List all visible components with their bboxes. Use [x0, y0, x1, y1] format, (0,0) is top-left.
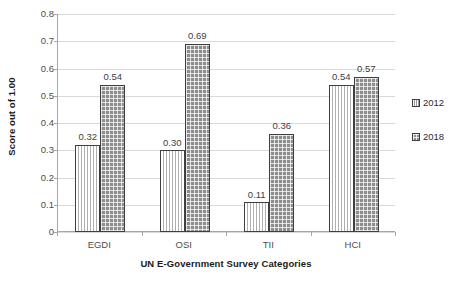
y-axis-tickmark: [54, 14, 58, 15]
bar-hci-2018[interactable]: [354, 77, 379, 232]
y-axis-tickmark: [54, 96, 58, 97]
x-axis-label-osi: OSI: [142, 240, 227, 250]
legend: 20122018: [412, 98, 464, 166]
bar-value-label: 0.54: [332, 72, 351, 82]
x-axis-label-hci: HCI: [311, 240, 396, 250]
bar-group: 0.320.54: [75, 14, 125, 232]
x-axis-title: UN E-Government Survey Categories: [57, 258, 395, 269]
x-axis-label-tii: TII: [226, 240, 311, 250]
y-axis-tickmark: [54, 205, 58, 206]
legend-label: 2012: [423, 98, 444, 108]
legend-swatch-icon: [412, 99, 420, 107]
y-axis-tick-label: 0: [22, 227, 54, 237]
bar-value-label: 0.36: [273, 121, 292, 131]
bar-chart: Score out of 1.00 0.80.70.60.50.40.30.20…: [0, 0, 464, 281]
bar-value-label: 0.57: [357, 64, 376, 74]
x-axis-tickmark: [142, 232, 143, 236]
y-axis-tick-label: 0.4: [22, 118, 54, 128]
x-axis-tickmark: [311, 232, 312, 236]
bar-egdi-2018[interactable]: [100, 85, 125, 232]
legend-item-2018[interactable]: 2018: [412, 132, 464, 142]
bar-tii-2012[interactable]: [244, 202, 269, 232]
y-axis-tick-label: 0.3: [22, 146, 54, 156]
y-axis-title: Score out of 1.00: [0, 0, 22, 232]
y-axis-tick-labels: 0.80.70.60.50.40.30.20.10: [20, 0, 54, 281]
bar-egdi-2012[interactable]: [75, 145, 100, 232]
bar-tii-2018[interactable]: [269, 134, 294, 232]
y-axis-tickmark: [54, 150, 58, 151]
legend-item-2012[interactable]: 2012: [412, 98, 464, 108]
y-axis-tickmark: [54, 41, 58, 42]
y-axis-tickmark: [54, 123, 58, 124]
x-axis-label-egdi: EGDI: [57, 240, 142, 250]
legend-swatch-icon: [412, 133, 420, 141]
bar-value-label: 0.54: [104, 72, 123, 82]
bar-osi-2012[interactable]: [160, 150, 185, 232]
y-axis-tick-label: 0.1: [22, 200, 54, 210]
x-axis-tickmark: [226, 232, 227, 236]
y-axis-tick-label: 0.5: [22, 91, 54, 101]
y-axis-tick-label: 0.2: [22, 173, 54, 183]
bar-value-label: 0.69: [188, 31, 207, 41]
y-axis-title-text: Score out of 1.00: [6, 77, 17, 155]
bar-hci-2012[interactable]: [329, 85, 354, 232]
bar-value-label: 0.32: [79, 132, 98, 142]
plot-area: 0.320.540.300.690.110.360.540.57: [57, 14, 395, 232]
x-axis-tickmark: [395, 232, 396, 236]
x-axis-tickmark: [57, 232, 58, 236]
bar-group: 0.540.57: [329, 14, 379, 232]
bar-value-label: 0.11: [248, 190, 266, 200]
y-axis-tick-label: 0.7: [22, 37, 54, 47]
bar-group: 0.110.36: [244, 14, 294, 232]
y-axis-tick-label: 0.6: [22, 64, 54, 74]
bar-osi-2018[interactable]: [185, 44, 210, 232]
bar-value-label: 0.30: [163, 138, 182, 148]
y-axis-tick-label: 0.8: [22, 9, 54, 19]
legend-label: 2018: [423, 132, 444, 142]
y-axis-tickmark: [54, 69, 58, 70]
y-axis-tickmark: [54, 178, 58, 179]
bar-group: 0.300.69: [160, 14, 210, 232]
